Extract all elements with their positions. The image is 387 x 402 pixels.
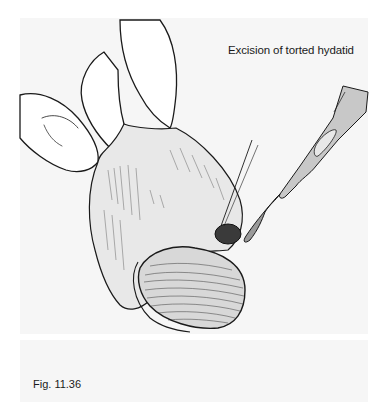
torted-hydatid-illustration	[215, 224, 241, 244]
surgical-illustration	[0, 0, 387, 402]
figure-title: Excision of torted hydatid	[228, 44, 354, 56]
figure-label: Fig. 11.36	[33, 378, 81, 390]
testis-illustration	[134, 247, 245, 332]
scalpel-illustration	[244, 86, 368, 242]
